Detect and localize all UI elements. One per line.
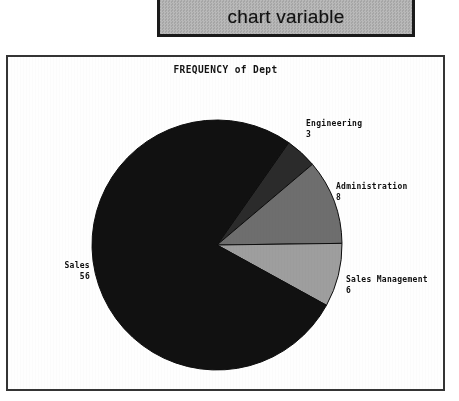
pie-label-administration-name: Administration: [336, 181, 408, 191]
pie-label-engineering-name: Engineering: [306, 118, 362, 128]
pie-label-sales: Sales 56: [38, 260, 90, 282]
chart-variable-label: chart variable: [228, 7, 345, 27]
pie-label-sales-management: Sales Management 6: [346, 274, 428, 296]
pie-chart: Engineering 3 Administration 8 Sales Man…: [8, 57, 443, 389]
pie-label-administration-value: 8: [336, 192, 408, 203]
chart-frame: FREQUENCY of Dept Engineering 3 Administ…: [6, 55, 445, 391]
pie-label-sales-value: 56: [38, 271, 90, 282]
pie-label-sales-name: Sales: [64, 260, 90, 270]
chart-variable-header: chart variable: [157, 0, 415, 37]
pie-label-administration: Administration 8: [336, 181, 408, 203]
pie-label-sales-management-name: Sales Management: [346, 274, 428, 284]
pie-label-engineering: Engineering 3: [306, 118, 362, 140]
pie-svg: [8, 57, 447, 393]
pie-label-sales-management-value: 6: [346, 285, 428, 296]
pie-label-engineering-value: 3: [306, 129, 362, 140]
